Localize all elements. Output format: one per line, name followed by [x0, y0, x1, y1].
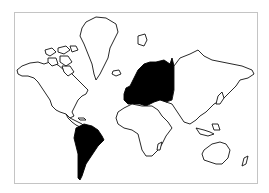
region-greenland: [80, 17, 118, 80]
region-svalbard: [138, 34, 147, 46]
region-north-america: [17, 62, 88, 118]
region-africa: [116, 104, 172, 156]
region-south-america[interactable]: [74, 124, 104, 180]
region-new-zealand: [242, 156, 248, 166]
world-map: [0, 0, 269, 193]
region-asia: [166, 50, 254, 124]
region-europe[interactable]: [124, 58, 174, 106]
region-australia: [202, 142, 230, 164]
region-iceland: [112, 70, 121, 76]
region-indonesia: [196, 124, 220, 136]
region-caribbean: [78, 118, 86, 120]
